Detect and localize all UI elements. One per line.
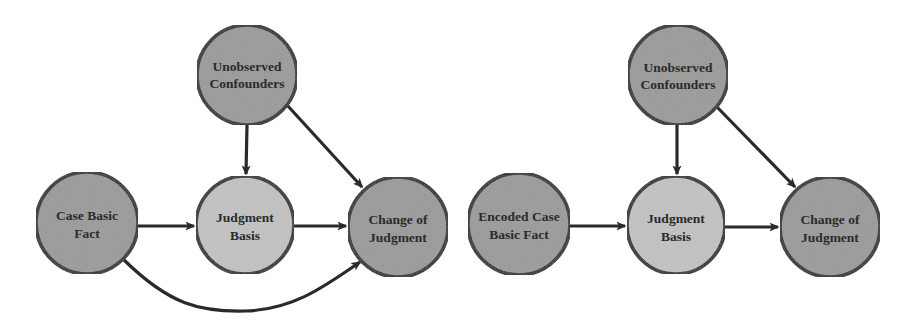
node-unobserved-confounders xyxy=(628,25,728,125)
node-label-confounders-line2: Confounders xyxy=(209,76,284,91)
node-label-fact-line2: Basic Fact xyxy=(489,227,549,242)
edge-confounders-to-change xyxy=(717,107,795,187)
causal-diagram-figure: Unobserved Confounders Case Basic Fact J… xyxy=(0,0,909,329)
right-causal-graph: Unobserved Confounders Encoded Case Basi… xyxy=(468,25,880,277)
node-case-basic-fact xyxy=(36,172,138,274)
node-label-confounders-line2: Confounders xyxy=(640,77,715,92)
node-change-of-judgment xyxy=(780,177,880,277)
edge-confounders-to-change xyxy=(287,105,362,187)
node-label-confounders-line1: Unobserved xyxy=(212,59,281,74)
node-label-basis-line1: Judgment xyxy=(216,210,274,225)
node-encoded-case-basic-fact xyxy=(468,173,570,275)
node-label-fact-line1: Case Basic xyxy=(56,208,118,223)
node-judgment-basis xyxy=(196,176,294,274)
node-change-of-judgment xyxy=(348,177,448,277)
node-label-fact-line2: Fact xyxy=(74,226,100,241)
node-label-change-line1: Change of xyxy=(369,212,428,227)
node-label-change-line2: Judgment xyxy=(369,230,427,245)
node-unobserved-confounders xyxy=(197,25,297,125)
node-label-confounders-line1: Unobserved xyxy=(643,60,712,75)
node-label-basis-line2: Basis xyxy=(230,228,260,243)
edge-confounders-to-basis xyxy=(246,125,247,174)
left-causal-graph: Unobserved Confounders Case Basic Fact J… xyxy=(36,25,448,311)
node-label-fact-line1: Encoded Case xyxy=(478,209,559,224)
node-label-basis-line1: Judgment xyxy=(647,211,705,226)
node-label-change-line2: Judgment xyxy=(801,230,859,245)
node-label-change-line1: Change of xyxy=(801,212,860,227)
node-label-basis-line2: Basis xyxy=(661,229,691,244)
